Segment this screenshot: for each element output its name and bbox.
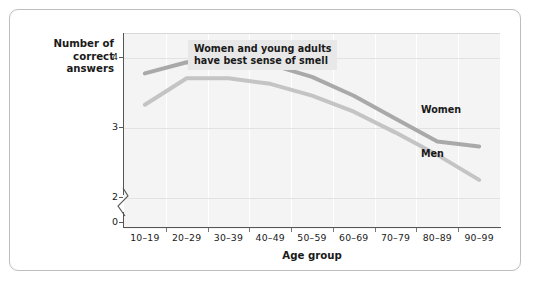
y-tick-mark <box>119 127 123 128</box>
chart-figure: Number of correct answers Women and youn… <box>0 0 548 289</box>
y-tick-label: 3 <box>100 121 118 132</box>
series-line-men <box>145 78 479 180</box>
chart-annotation: Women and young adults have best sense o… <box>188 40 337 70</box>
y-axis-title-line1: Number of <box>26 38 114 51</box>
y-tick-mark <box>119 222 123 223</box>
x-tick-label: 90–99 <box>452 232 506 243</box>
y-tick-mark <box>119 197 123 198</box>
x-axis-title: Age group <box>124 250 500 261</box>
y-tick-label: 4 <box>100 51 118 62</box>
series-label-men: Men <box>421 148 444 159</box>
y-tick-label: 0 <box>100 216 118 227</box>
y-tick-label: 2 <box>100 191 118 202</box>
series-label-women: Women <box>421 104 461 115</box>
y-tick-mark <box>119 57 123 58</box>
